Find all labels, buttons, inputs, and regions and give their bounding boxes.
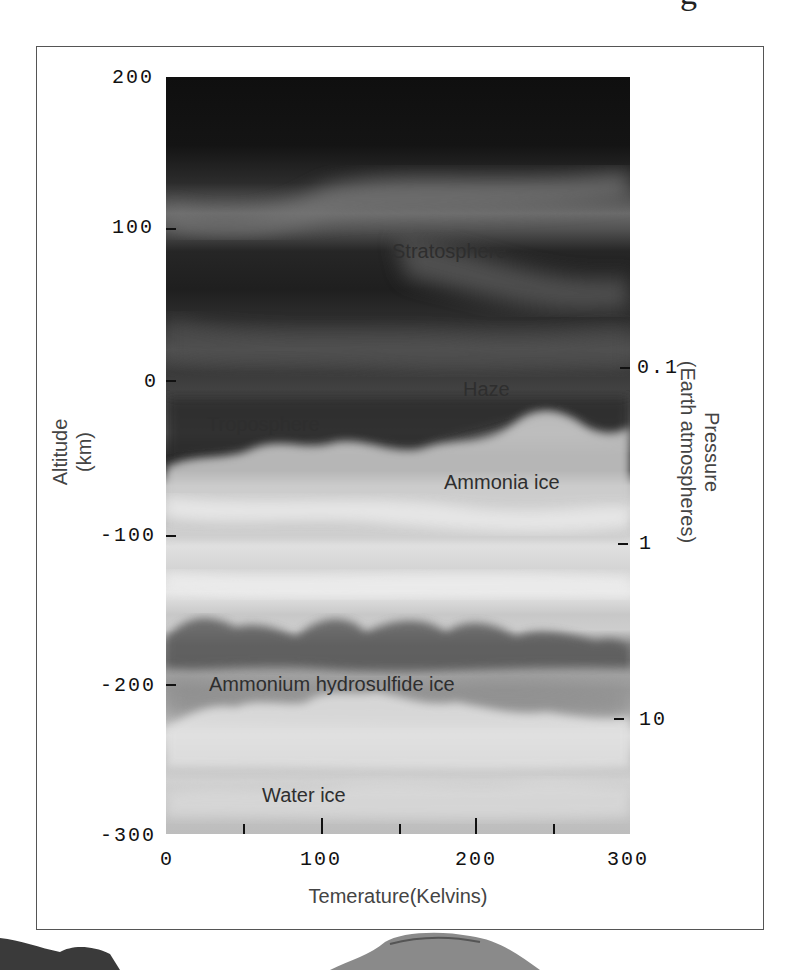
label-ammonia-ice: Ammonia ice bbox=[444, 471, 560, 494]
y2-axis-title-line2: (Earth atmospheres) bbox=[676, 337, 700, 567]
atmosphere-plot-area: Stratosphere Haze Troposphere Ammonia ic… bbox=[166, 77, 630, 834]
y-tick-100 bbox=[166, 228, 176, 230]
y-tick-label-100: 100 bbox=[112, 216, 154, 239]
y-tick-neg100 bbox=[166, 535, 176, 537]
label-ammonium-hydrosulfide-ice: Ammonium hydrosulfide ice bbox=[209, 673, 455, 696]
x-minor-tick-200 bbox=[475, 818, 477, 834]
title-fragment: g bbox=[680, 0, 697, 12]
label-stratosphere: Stratosphere bbox=[392, 240, 507, 263]
y-tick-label-0: 0 bbox=[144, 370, 158, 393]
x-minor-tick-250 bbox=[553, 824, 555, 834]
y-tick-label-neg300: -300 bbox=[100, 824, 156, 847]
y2-tick-1 bbox=[618, 543, 628, 545]
y2-tick-label-1: 1 bbox=[639, 532, 653, 555]
x-tick-label-100: 100 bbox=[300, 848, 342, 871]
y-tick-label-neg100: -100 bbox=[100, 524, 156, 547]
y2-tick-label-10: 10 bbox=[639, 708, 667, 731]
x-minor-tick-50 bbox=[243, 824, 245, 834]
y-axis-title-line2: (km) bbox=[72, 402, 96, 502]
x-tick-label-300: 300 bbox=[607, 848, 649, 871]
x-axis-title: Temerature(Kelvins) bbox=[248, 884, 548, 908]
y-tick-label-200: 200 bbox=[112, 66, 154, 89]
y-axis-title: Altitude (km) bbox=[48, 402, 96, 502]
x-minor-tick-100 bbox=[321, 818, 323, 834]
x-minor-tick-150 bbox=[399, 824, 401, 834]
label-water-ice: Water ice bbox=[262, 784, 346, 807]
y-tick-0 bbox=[166, 380, 176, 382]
y2-tick-0-1 bbox=[620, 367, 630, 369]
rock-decoration bbox=[0, 930, 798, 970]
x-tick-label-200: 200 bbox=[455, 848, 497, 871]
label-troposphere: Troposphere bbox=[207, 413, 320, 436]
cloud-layers-illustration bbox=[166, 77, 630, 834]
y2-tick-label-0-1: 0.1 bbox=[637, 356, 679, 379]
label-haze: Haze bbox=[463, 378, 510, 401]
y-tick-neg200 bbox=[166, 684, 176, 686]
y2-axis-title: Pressure (Earth atmospheres) bbox=[676, 337, 724, 567]
x-tick-label-0: 0 bbox=[160, 848, 174, 871]
y2-tick-10 bbox=[614, 718, 624, 720]
y-axis-title-line1: Altitude bbox=[48, 402, 72, 502]
y-tick-label-neg200: -200 bbox=[100, 674, 156, 697]
y2-axis-title-line1: Pressure bbox=[700, 337, 724, 567]
